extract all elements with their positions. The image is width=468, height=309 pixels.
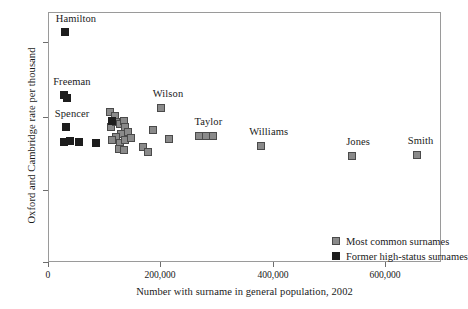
- plot-area: HamiltonFreemanSpencerWilsonTaylorWillia…: [48, 12, 441, 262]
- x-tick-mark-200000: [160, 262, 161, 267]
- point-label-williams: Williams: [249, 126, 288, 137]
- data-point-marker: [108, 117, 116, 125]
- legend-swatch-high-status-icon: [332, 252, 340, 260]
- data-point-marker: [75, 138, 83, 146]
- data-point-marker: [108, 136, 116, 144]
- data-point-marker: [62, 123, 70, 131]
- point-label-spencer: Spencer: [55, 108, 90, 119]
- legend-label-high-status: Former high-status surnames: [346, 251, 468, 262]
- chart-legend: Most common surnames Former high-status …: [332, 234, 468, 264]
- data-point-marker: [413, 151, 421, 159]
- legend-label-most-common: Most common surnames: [346, 236, 449, 247]
- point-label-taylor: Taylor: [194, 116, 222, 127]
- data-point-marker: [209, 132, 217, 140]
- x-axis-label: Number with surname in general populatio…: [48, 286, 441, 297]
- x-tick-mark-400000: [273, 262, 274, 267]
- x-tick-label-0: 0: [13, 269, 83, 280]
- point-label-freeman: Freeman: [53, 76, 90, 87]
- data-point-marker: [165, 135, 173, 143]
- data-point-marker: [61, 28, 69, 36]
- point-label-wilson: Wilson: [153, 88, 184, 99]
- x-tick-label-200000: 200,000: [125, 269, 195, 280]
- data-point-marker: [144, 148, 152, 156]
- data-point-marker: [257, 142, 265, 150]
- x-tick-mark-0: [48, 262, 49, 267]
- point-label-smith: Smith: [408, 135, 434, 146]
- data-point-marker: [157, 104, 165, 112]
- x-tick-label-600000: 600,000: [350, 269, 420, 280]
- data-point-marker: [120, 146, 128, 154]
- data-point-marker: [66, 137, 74, 145]
- data-point-marker: [348, 152, 356, 160]
- y-axis-label: Oxford and Cambridge rate per thousand: [26, 21, 37, 251]
- legend-item-high-status: Former high-status surnames: [332, 249, 468, 263]
- legend-item-most-common: Most common surnames: [332, 234, 468, 248]
- data-point-marker: [63, 94, 71, 102]
- data-point-marker: [127, 134, 135, 142]
- data-point-marker: [149, 126, 157, 134]
- point-label-jones: Jones: [346, 136, 370, 147]
- x-tick-label-400000: 400,000: [238, 269, 308, 280]
- legend-swatch-common-icon: [332, 237, 340, 245]
- data-point-marker: [92, 139, 100, 147]
- point-label-hamilton: Hamilton: [56, 13, 96, 24]
